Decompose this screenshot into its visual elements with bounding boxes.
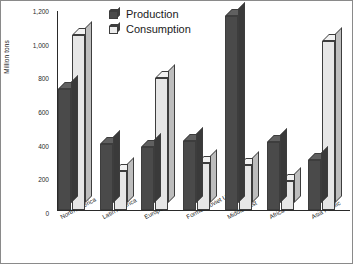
legend-label-production: Production xyxy=(126,8,179,20)
bar-production[interactable] xyxy=(183,141,196,210)
bar-group xyxy=(141,11,183,210)
legend-label-consumption: Consumption xyxy=(126,23,191,35)
legend-item-consumption: Consumption xyxy=(109,22,191,35)
legend-swatch-production-icon xyxy=(109,9,120,19)
y-tick-label: 400 xyxy=(13,142,49,149)
bar-group xyxy=(267,11,309,210)
plot-area xyxy=(57,11,350,211)
legend-item-production: Production xyxy=(109,7,191,20)
x-tick-label-cell: North America xyxy=(57,211,99,263)
bar-production[interactable] xyxy=(58,89,71,210)
y-axis-title: Million tons xyxy=(3,17,10,97)
chart-legend: Production Consumption xyxy=(109,7,191,37)
bar-production[interactable] xyxy=(225,16,238,210)
bar-group xyxy=(225,11,267,210)
bar-production[interactable] xyxy=(308,160,321,210)
x-tick-label-cell: Asia Pacific xyxy=(308,211,350,263)
bar-production[interactable] xyxy=(100,144,113,210)
y-tick-label: 600 xyxy=(13,109,49,116)
bar-groups xyxy=(58,11,350,210)
bar-group xyxy=(100,11,142,210)
bar-group xyxy=(58,11,100,210)
x-tick-label-cell: Former Soviet Union xyxy=(183,211,225,263)
y-axis-tick-labels: 02004006008001,0001,200 xyxy=(13,1,49,265)
bar-production[interactable] xyxy=(267,142,280,210)
y-tick-label: 1,000 xyxy=(13,41,49,48)
x-tick-label-cell: Europe xyxy=(141,211,183,263)
x-axis-tick-labels: North AmericaLatin AmericaEuropeFormer S… xyxy=(57,211,350,263)
legend-swatch-consumption-icon xyxy=(109,24,120,34)
bar-chart: Million tons 02004006008001,0001,200 Pro… xyxy=(0,0,353,264)
y-tick-label: 200 xyxy=(13,176,49,183)
bar-group xyxy=(183,11,225,210)
y-tick-label: 1,200 xyxy=(13,8,49,15)
bar-group xyxy=(308,11,350,210)
y-tick-label: 0 xyxy=(13,210,49,217)
bar-production[interactable] xyxy=(141,147,154,210)
x-tick-label-cell: Latin America xyxy=(99,211,141,263)
y-tick-label: 800 xyxy=(13,75,49,82)
x-tick-label-cell: Africa xyxy=(266,211,308,263)
x-tick-label-cell: Middle East xyxy=(224,211,266,263)
